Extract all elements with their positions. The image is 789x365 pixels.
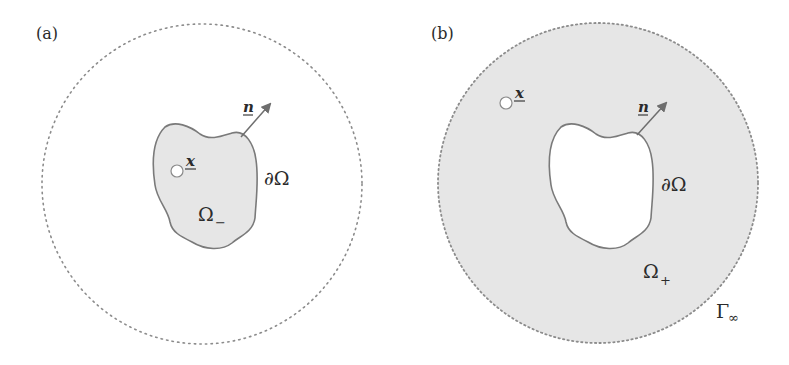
domain-subscript-a: − [215, 215, 226, 230]
point-vector-label-a: x [185, 152, 196, 170]
panel-b: (b) n x ∂Ω Ω + Γ ∞ [431, 23, 758, 343]
domain-label-a: Ω [198, 203, 214, 225]
boundary-label-b: ∂Ω [661, 173, 687, 195]
normal-vector-label-a: n [243, 98, 254, 116]
source-point-b [500, 97, 512, 109]
boundary-label-a: ∂Ω [264, 167, 290, 189]
panel-label-a: (a) [36, 24, 58, 43]
boundary-label-b-text: Ω [671, 173, 687, 195]
interior-domain-boundary-a [153, 124, 257, 249]
far-boundary-subscript-b: ∞ [728, 310, 739, 325]
domain-subscript-b: + [660, 273, 671, 288]
panel-a: (a) n x ∂Ω Ω − [36, 24, 362, 344]
boundary-domain-figure: (a) n x ∂Ω Ω − (b) n x ∂Ω Ω + Γ ∞ [0, 0, 789, 365]
boundary-label-a-text: Ω [274, 167, 290, 189]
point-vector-label-b: x [514, 84, 525, 102]
source-point-a [171, 165, 183, 177]
normal-vector-label-b: n [638, 98, 649, 116]
domain-label-b: Ω [643, 260, 659, 282]
panel-label-b: (b) [431, 24, 454, 43]
